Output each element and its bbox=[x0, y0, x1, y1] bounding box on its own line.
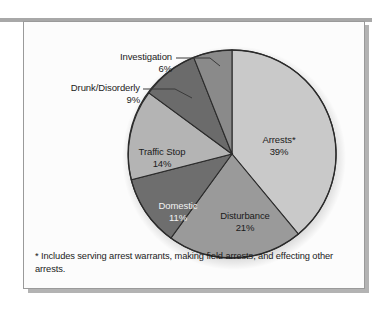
pie-label-investigation-value: 6% bbox=[70, 63, 172, 75]
pie-label-domestic: Domestic 11% bbox=[142, 200, 214, 223]
pie-label-drunk-disorderly-name: Drunk/Disorderly bbox=[71, 82, 140, 93]
pie-label-investigation: Investigation 6% bbox=[70, 51, 172, 74]
pie-slice-investigation bbox=[194, 50, 232, 154]
pie-label-arrests: Arrests* 39% bbox=[240, 134, 318, 157]
pie-label-traffic-stop-value: 14% bbox=[120, 158, 204, 170]
leader-line-drunk-disorderly bbox=[143, 89, 192, 98]
chart-footnote: * Includes serving arrest warrants, maki… bbox=[35, 250, 350, 276]
pie-label-drunk-disorderly: Drunk/Disorderly 9% bbox=[32, 82, 140, 105]
leader-line-investigation bbox=[176, 58, 220, 66]
pie-label-traffic-stop-name: Traffic Stop bbox=[139, 146, 186, 157]
pie-label-domestic-name: Domestic bbox=[159, 200, 198, 211]
pie-label-disturbance-value: 21% bbox=[202, 222, 288, 234]
pie-chart-card: Investigation 6% Drunk/Disorderly 9% Arr… bbox=[23, 21, 365, 289]
pie-label-drunk-disorderly-value: 9% bbox=[32, 94, 140, 106]
pie-label-arrests-value: 39% bbox=[240, 146, 318, 158]
pie-label-disturbance-name: Disturbance bbox=[220, 210, 270, 221]
pie-label-disturbance: Disturbance 21% bbox=[202, 210, 288, 233]
pie-label-investigation-name: Investigation bbox=[120, 51, 172, 62]
pie-label-domestic-value: 11% bbox=[142, 212, 214, 224]
pie-label-traffic-stop: Traffic Stop 14% bbox=[120, 146, 204, 169]
pie-label-arrests-name: Arrests* bbox=[263, 134, 296, 145]
figure-root: Investigation 6% Drunk/Disorderly 9% Arr… bbox=[0, 0, 382, 320]
